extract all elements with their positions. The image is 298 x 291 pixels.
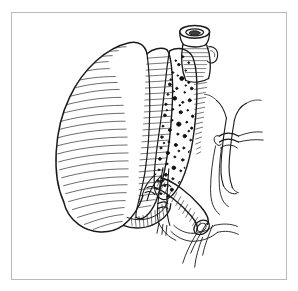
suture-tails	[183, 146, 229, 267]
stomach-body-hatching	[57, 47, 128, 230]
fat-stipple	[157, 56, 194, 198]
lower-fold-hatching	[131, 202, 167, 228]
stump-wall-hatching	[181, 49, 212, 77]
ligated-vessel-upper	[214, 100, 263, 193]
figure-root: Surgical line drawing: gastric resection…	[0, 0, 298, 291]
upper-right-accent-lines	[205, 94, 262, 103]
figure-frame: Surgical line drawing: gastric resection…	[11, 12, 287, 280]
esophageal-stump	[180, 25, 211, 82]
surgical-illustration-canvas	[12, 13, 286, 279]
stomach-body-outline	[56, 42, 150, 232]
